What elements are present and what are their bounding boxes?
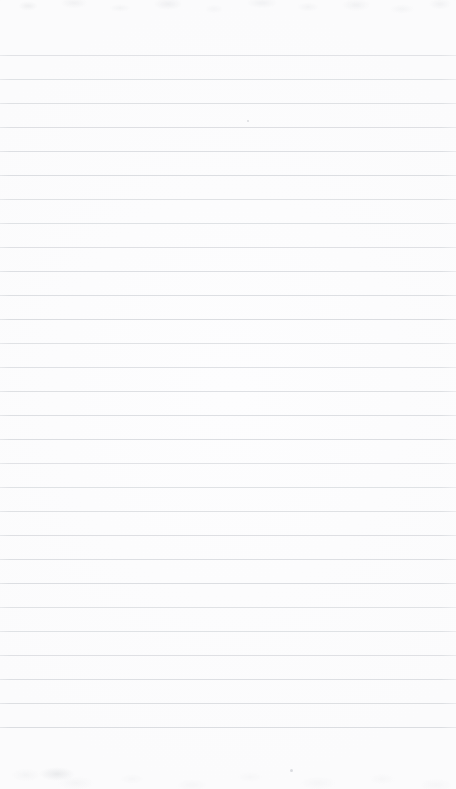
scan-smudge-artifact xyxy=(34,765,80,783)
rule-line xyxy=(0,247,456,248)
rule-line xyxy=(0,559,456,560)
rule-line xyxy=(0,79,456,80)
rule-line xyxy=(0,127,456,128)
rule-line xyxy=(0,583,456,584)
scanned-page xyxy=(0,0,456,789)
rule-line xyxy=(0,463,456,464)
rule-line xyxy=(0,655,456,656)
rule-line xyxy=(0,55,456,56)
rule-line xyxy=(0,511,456,512)
rule-line xyxy=(0,271,456,272)
scan-speck-icon xyxy=(247,120,249,122)
rule-line xyxy=(0,295,456,296)
rule-line xyxy=(0,415,456,416)
rule-line xyxy=(0,727,456,728)
rule-line xyxy=(0,151,456,152)
rule-line xyxy=(0,223,456,224)
rule-line xyxy=(0,175,456,176)
rule-line xyxy=(0,439,456,440)
rule-line xyxy=(0,391,456,392)
rule-line xyxy=(0,535,456,536)
rule-line xyxy=(0,487,456,488)
rule-line xyxy=(0,367,456,368)
rule-line xyxy=(0,631,456,632)
rule-line xyxy=(0,607,456,608)
rule-line xyxy=(0,343,456,344)
ruled-lines-layer xyxy=(0,0,456,789)
rule-line xyxy=(0,199,456,200)
scan-speck-icon xyxy=(290,769,293,772)
rule-line xyxy=(0,319,456,320)
rule-line xyxy=(0,679,456,680)
rule-line xyxy=(0,103,456,104)
rule-line xyxy=(0,703,456,704)
